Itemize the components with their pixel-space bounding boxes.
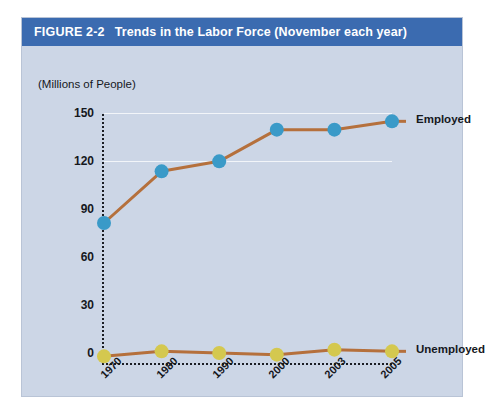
- data-point-marker: [155, 344, 169, 358]
- chart-svg: [22, 46, 462, 396]
- figure-title: Trends in the Labor Force (November each…: [115, 25, 407, 39]
- data-point-marker: [385, 344, 399, 358]
- data-point-marker: [212, 346, 226, 360]
- series-line: [104, 121, 392, 223]
- series-label-unemployed: Unemployed: [416, 343, 485, 355]
- data-point-marker: [385, 114, 399, 128]
- figure-panel: FIGURE 2-2 Trends in the Labor Force (No…: [22, 18, 462, 396]
- data-point-marker: [270, 348, 284, 362]
- figure-title-bar: FIGURE 2-2 Trends in the Labor Force (No…: [22, 18, 462, 46]
- series-line: [104, 350, 392, 357]
- data-point-marker: [270, 123, 284, 137]
- figure-number: FIGURE 2-2: [34, 25, 105, 39]
- data-point-marker: [327, 123, 341, 137]
- chart-plot-area: (Millions of People) 150 120 90 60 30 0 …: [22, 46, 462, 396]
- data-point-marker: [97, 216, 111, 230]
- series-unemployed: [97, 343, 406, 364]
- data-point-marker: [327, 343, 341, 357]
- data-point-marker: [97, 349, 111, 363]
- series-employed: [97, 114, 406, 230]
- series-label-employed: Employed: [416, 113, 471, 125]
- data-point-marker: [212, 154, 226, 168]
- data-point-marker: [155, 164, 169, 178]
